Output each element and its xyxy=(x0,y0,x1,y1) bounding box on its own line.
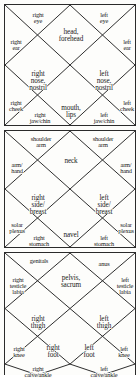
edge-left-testicle-labia: left testicle labia xyxy=(117,277,134,295)
edge-right-arm-hand: arm/ hand xyxy=(11,162,23,174)
cell-right-nose-nostril: right nose, nostril xyxy=(29,71,47,91)
edge-left-stomach: left stomach xyxy=(94,235,114,247)
cell-mouth-lips: mouth, lips xyxy=(61,105,81,119)
edge-left-eye: left eye xyxy=(100,12,108,24)
head-block: head, forehead right nose, nostril left … xyxy=(4,4,136,126)
cell-left-foot: left foot xyxy=(83,345,94,359)
cell-neck: neck xyxy=(64,158,77,165)
edge-right-eye: right eye xyxy=(32,12,43,24)
edge-right-knee: right knee xyxy=(13,346,24,358)
cell-head-forehead: head, forehead xyxy=(59,29,83,43)
edge-left-cheek: left cheek xyxy=(120,100,134,112)
cell-right-thigh: right thigh xyxy=(31,316,45,330)
edge-left-calve-ankle: left calve/ankle xyxy=(91,366,118,378)
edge-right-calve-ankle: right calve/ankle xyxy=(25,366,52,378)
edge-right-solar-plexus: solar plexus xyxy=(9,222,25,234)
edge-right-cheek: right cheek xyxy=(9,100,23,112)
edge-left-jaw-chin: left jaw/chin xyxy=(94,112,114,124)
edge-right-testicle-labia: right testicle labia xyxy=(10,277,27,295)
cell-pelvis-sacrum: pelvis, sacrum xyxy=(61,275,81,289)
cell-right-foot: right foot xyxy=(46,345,59,359)
edge-left-arm-hand: arm/ hand xyxy=(120,162,132,174)
cell-left-thigh: left thigh xyxy=(97,316,111,330)
edge-left-shoulder-arm: shoulder arm xyxy=(93,136,113,148)
torso-block: neck right side/ breast left side/ breas… xyxy=(4,130,136,248)
edge-left-solar-plexus: solar plexus xyxy=(118,222,134,234)
edge-left-knee: left knee xyxy=(118,346,129,358)
edge-right-jaw-chin: right jaw/chin xyxy=(30,112,50,124)
cell-navel: navel xyxy=(63,232,78,239)
cell-left-nose-nostril: left nose, nostril xyxy=(95,71,113,91)
cell-left-side-breast: left side/ breast xyxy=(96,195,113,215)
edge-right-ear: right ear xyxy=(10,39,21,51)
edge-anus: anus xyxy=(99,261,110,267)
edge-left-ear: left ear xyxy=(123,39,131,51)
edge-right-stomach: right stomach xyxy=(29,235,49,247)
edge-right-shoulder-arm: shoulder arm xyxy=(31,136,51,148)
cell-right-side-breast: right side/ breast xyxy=(30,195,47,215)
pelvis-legs-block: pelvis, sacrum right thigh left thigh ri… xyxy=(4,252,136,375)
edge-genitals: genitals xyxy=(30,258,48,264)
